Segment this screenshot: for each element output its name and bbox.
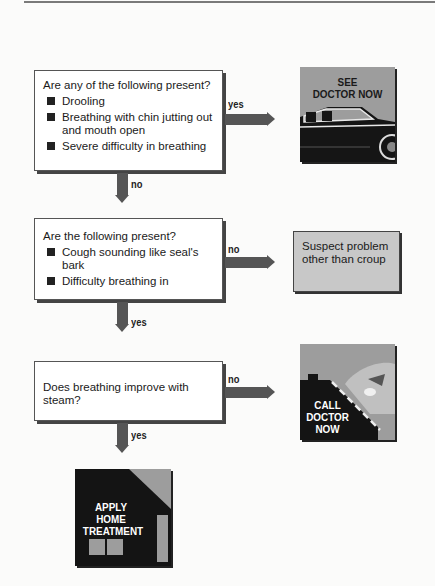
list-item: Drooling (43, 95, 216, 108)
suspect-other-problem-box: Suspect problem other than croup (293, 231, 400, 292)
see-doctor-now-image: SEE DOCTOR NOW (300, 67, 395, 162)
question-2-box: Are the following present? Cough soundin… (34, 218, 223, 300)
list-item: Cough sounding like seal's bark (43, 246, 216, 272)
bullet-square-icon (47, 277, 55, 285)
call-doctor-line2: DOCTOR (303, 411, 353, 423)
no-label-2: no (228, 243, 239, 255)
bullet-square-icon (47, 113, 55, 121)
arrow-right-no-2 (225, 257, 267, 268)
yes-label-1: yes (228, 98, 244, 110)
bullet-square-icon (47, 142, 55, 150)
list-item: Breathing with chin jutting out and mout… (43, 111, 216, 137)
yes-label-3: yes (131, 429, 147, 441)
call-doctor-line1: CALL (303, 399, 353, 411)
arrow-down-no-1 (117, 173, 128, 195)
car-icon (300, 67, 395, 162)
call-doctor-now-image: CALL DOCTOR NOW (300, 344, 395, 440)
yes-label-2: yes (131, 316, 147, 328)
top-rule (24, 1, 435, 3)
bullet-square-icon (47, 248, 55, 256)
question-1-box: Are any of the following present? Drooli… (34, 70, 223, 171)
list-item: Difficulty breathing in (43, 275, 216, 288)
question-2-text: Are the following present? (43, 230, 216, 243)
question-1-text: Are any of the following present? (43, 79, 216, 92)
apply-home-treatment-image: APPLY HOME TREATMENT (75, 469, 171, 566)
question-3-text: Does breathing improve with steam? (43, 381, 216, 407)
arrow-down-yes-2 (117, 302, 128, 324)
list-item: Severe difficulty in breathing (43, 140, 216, 153)
arrow-right-yes-1 (225, 114, 267, 125)
home-line3: TREATMENT (79, 525, 147, 537)
call-doctor-line3: NOW (303, 423, 353, 435)
arrow-down-yes-3 (117, 423, 128, 445)
no-label-3: no (228, 373, 239, 385)
bullet-square-icon (47, 97, 55, 105)
home-line2: HOME (84, 513, 138, 525)
home-line1: APPLY (84, 501, 138, 513)
arrow-right-no-3 (225, 387, 267, 398)
question-3-box: Does breathing improve with steam? (34, 361, 223, 421)
no-label-1: no (131, 178, 142, 190)
